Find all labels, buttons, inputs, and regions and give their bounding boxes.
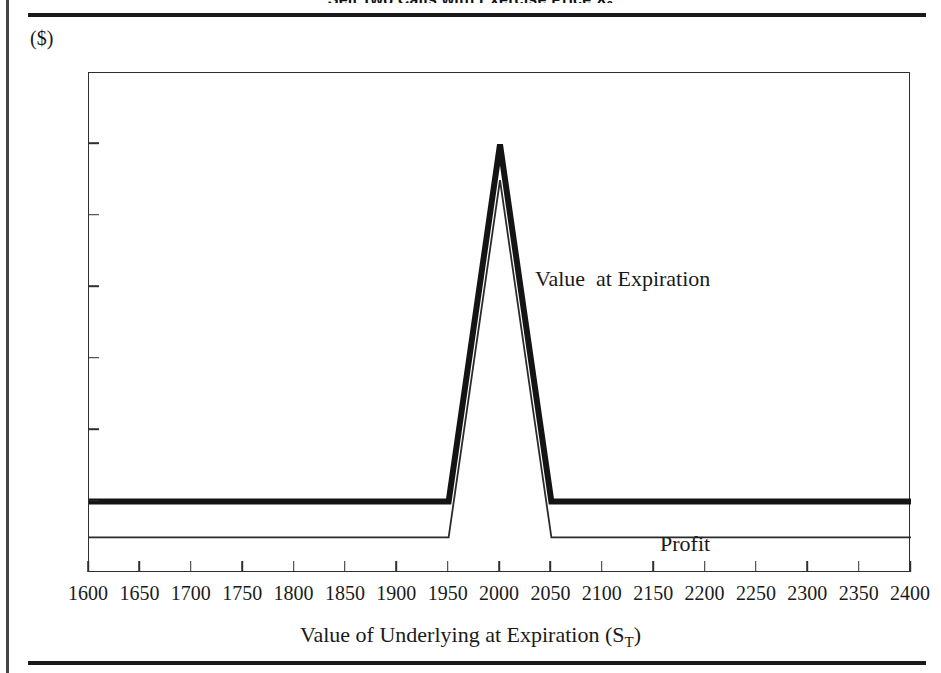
x-axis-tick-mark (87, 561, 89, 572)
x-axis-tick-label: 1850 (325, 583, 365, 603)
y-axis-tick-mark (88, 500, 99, 502)
x-axis-tick-mark (498, 561, 500, 572)
y-axis-tick-mark (88, 428, 99, 430)
x-axis-tick-label: 1600 (68, 583, 108, 603)
y-axis-tick-mark (88, 214, 99, 216)
series-value-at-expiration (89, 144, 911, 501)
x-axis-tick-label: 2000 (479, 583, 519, 603)
x-axis-tick-mark (909, 561, 911, 572)
x-axis-tick-label: 2050 (530, 583, 570, 603)
x-axis-tick-mark (550, 561, 552, 572)
y-axis-tick-mark (88, 285, 99, 287)
x-axis-tick-mark (447, 561, 449, 572)
x-axis-tick-label: 1800 (274, 583, 314, 603)
top-divider-rule (28, 13, 926, 17)
x-axis-title-subscript: T (624, 634, 633, 650)
x-axis-tick-label: 1950 (428, 583, 468, 603)
x-axis-tick-mark (806, 561, 808, 572)
x-axis-tick-label: 1900 (376, 583, 416, 603)
x-axis-tick-mark (652, 561, 654, 572)
chart-title-text: Sell Two Calls with Exercise Price X (328, 0, 607, 3)
x-axis-tick-label: 2200 (685, 583, 725, 603)
x-axis-tick-mark (704, 561, 706, 572)
x-axis-tick-label: 2300 (787, 583, 827, 603)
x-axis-tick-mark (755, 561, 757, 572)
y-axis-tick-mark (88, 357, 99, 359)
x-axis-tick-label: 1650 (119, 583, 159, 603)
x-axis-title-text: Value of Underlying at Expiration (S (300, 622, 624, 647)
plot-area (88, 72, 910, 572)
x-axis-tick-label: 1750 (222, 583, 262, 603)
series-profit (89, 180, 911, 537)
x-axis-tick-label: 2100 (582, 583, 622, 603)
x-axis-title-paren: ) (634, 622, 641, 647)
chart-title-subscript: 2 (607, 0, 613, 3)
chart-plot-svg (89, 73, 911, 573)
annotation-profit: Profit (660, 531, 710, 557)
x-axis-tick-mark (293, 561, 295, 572)
x-axis-title: Value of Underlying at Expiration (ST) (0, 622, 941, 651)
y-axis-tick-mark (88, 143, 99, 145)
bottom-divider-rule (28, 661, 926, 665)
x-axis-tick-label: 2400 (890, 583, 930, 603)
x-axis-tick-label: 2350 (839, 583, 879, 603)
x-axis-tick-label: 2150 (633, 583, 673, 603)
annotation-value-at-expiration: Value at Expiration (535, 266, 710, 292)
chart-title: Sell Two Calls with Exercise Price X2 (0, 0, 941, 3)
x-axis-tick-mark (241, 561, 243, 572)
y-axis-unit-label: ($) (30, 27, 53, 50)
x-axis-tick-mark (395, 561, 397, 572)
page-edge-rule (6, 0, 9, 673)
x-axis-tick-mark (344, 561, 346, 572)
x-axis-tick-mark (139, 561, 141, 572)
x-axis-tick-label: 1700 (171, 583, 211, 603)
x-axis-tick-mark (858, 561, 860, 572)
x-axis-tick-mark (190, 561, 192, 572)
x-axis-tick-label: 2250 (736, 583, 776, 603)
x-axis-tick-mark (601, 561, 603, 572)
